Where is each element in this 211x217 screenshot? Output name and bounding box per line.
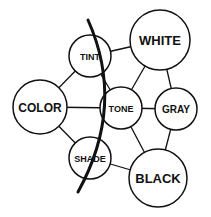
node-label: BLACK [135, 171, 181, 186]
node-label: WHITE [139, 33, 181, 48]
node-black: BLACK [129, 149, 187, 207]
node-tone: TONE [100, 87, 142, 129]
node-label: GRAY [162, 104, 190, 115]
node-label: TONE [109, 104, 134, 114]
color-relationship-diagram: TINTWHITECOLORTONEGRAYSHADEBLACK [0, 0, 211, 217]
node-shade: SHADE [69, 137, 111, 179]
node-gray: GRAY [155, 88, 197, 130]
node-label: TINT [80, 52, 100, 62]
node-label: SHADE [74, 154, 106, 164]
node-color: COLOR [13, 80, 67, 134]
node-label: COLOR [18, 101, 62, 115]
node-white: WHITE [130, 10, 190, 70]
node-tint: TINT [69, 35, 111, 77]
